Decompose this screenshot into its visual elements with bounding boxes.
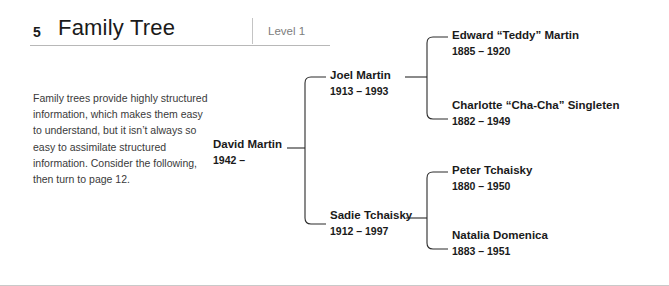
node-name: Natalia Domenica	[452, 228, 548, 242]
tree-node-natalia-domenica: Natalia Domenica 1883 – 1951	[452, 228, 548, 258]
node-dates: 1880 – 1950	[452, 179, 532, 193]
node-dates: 1913 – 1993	[330, 84, 391, 98]
node-dates: 1912 – 1997	[330, 224, 412, 238]
node-name: Edward “Teddy” Martin	[452, 28, 579, 42]
node-dates: 1883 – 1951	[452, 244, 548, 258]
tree-node-peter-tchaisky: Peter Tchaisky 1880 – 1950	[452, 163, 532, 193]
tree-node-edward-martin: Edward “Teddy” Martin 1885 – 1920	[452, 28, 579, 58]
node-name: Sadie Tchaisky	[330, 208, 412, 222]
node-name: David Martin	[213, 137, 282, 151]
family-tree: David Martin 1942 – Joel Martin 1913 – 1…	[0, 0, 669, 286]
tree-node-sadie-tchaisky: Sadie Tchaisky 1912 – 1997	[330, 208, 412, 238]
page-container: 5 Family Tree Level 1 Family trees provi…	[0, 0, 669, 286]
node-dates: 1882 – 1949	[452, 114, 619, 128]
tree-node-charlotte-singleten: Charlotte “Cha-Cha” Singleten 1882 – 194…	[452, 98, 619, 128]
node-name: Joel Martin	[330, 68, 391, 82]
node-name: Peter Tchaisky	[452, 163, 532, 177]
node-dates: 1885 – 1920	[452, 44, 579, 58]
tree-node-root: David Martin 1942 –	[213, 137, 282, 167]
node-name: Charlotte “Cha-Cha” Singleten	[452, 98, 619, 112]
tree-node-joel-martin: Joel Martin 1913 – 1993	[330, 68, 391, 98]
node-dates: 1942 –	[213, 153, 282, 167]
